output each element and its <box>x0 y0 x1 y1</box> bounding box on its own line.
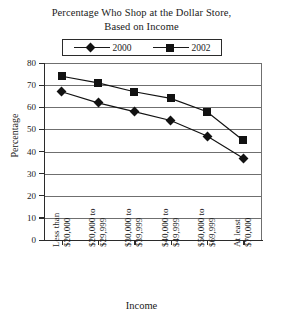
x-tick-label-1: $20,000 to$29,999 <box>87 173 108 247</box>
y-tick-label: 60 <box>27 102 36 112</box>
x-tick-label-line: Less than <box>51 173 62 247</box>
y-tick-50: 50 <box>0 124 44 134</box>
chart-legend: 2000 2002 <box>62 39 222 56</box>
y-axis: 80706050403020100 <box>0 0 44 320</box>
gridline-20 <box>45 196 261 197</box>
y-tick-80: 80 <box>0 58 44 68</box>
data-point-2002-0 <box>58 72 66 80</box>
legend-sample-2000 <box>74 42 110 54</box>
diamond-marker-icon <box>85 42 95 52</box>
data-point-2002-1 <box>94 79 102 87</box>
y-tick-label: 50 <box>27 124 36 134</box>
y-tick-70: 70 <box>0 80 44 90</box>
x-tick-label-line: $49,999 <box>170 173 181 247</box>
y-tick-10: 10 <box>0 213 44 223</box>
y-tick-label: 0 <box>32 235 37 245</box>
x-tick-label-4: $50,000 to$69,999 <box>196 173 217 247</box>
legend-entry-2000: 2000 <box>74 40 132 55</box>
y-tick-30: 30 <box>0 169 44 179</box>
gridline-50 <box>45 129 261 130</box>
x-tick-label-line: $20,000 <box>61 173 72 247</box>
y-tick-label: 40 <box>27 147 36 157</box>
x-tick-label-line: $30,000 to <box>123 173 134 247</box>
x-tick-label-line: At least <box>232 173 243 247</box>
x-tick-label-line: $40,000 to <box>160 173 171 247</box>
x-tick-label-line: $50,000 to <box>196 173 207 247</box>
gridline-60 <box>45 107 261 108</box>
y-axis-title: Percentage <box>9 91 20 181</box>
x-tick-label-2: $30,000 to$39,999 <box>123 173 144 247</box>
data-point-2002-5 <box>239 136 247 144</box>
gridline-80 <box>45 63 261 64</box>
y-tick-label: 10 <box>27 213 36 223</box>
x-tick-label-0: Less than$20,000 <box>51 173 72 247</box>
y-tick-label: 20 <box>27 191 36 201</box>
x-tick-label-5: At least$70,000 <box>232 173 253 247</box>
plot-area <box>44 63 262 240</box>
data-point-2002-3 <box>167 94 175 102</box>
y-tick-60: 60 <box>0 102 44 112</box>
legend-label-2002: 2002 <box>192 43 211 53</box>
gridline-40 <box>45 152 261 153</box>
y-tick-label: 80 <box>27 58 36 68</box>
gridline-70 <box>45 85 261 86</box>
legend-sample-2002 <box>153 42 189 54</box>
x-tick-label-3: $40,000 to$49,999 <box>160 173 181 247</box>
y-tick-20: 20 <box>0 191 44 201</box>
y-tick-label: 70 <box>27 80 36 90</box>
square-marker-icon <box>166 44 174 52</box>
data-point-2002-4 <box>203 108 211 116</box>
y-tick-40: 40 <box>0 147 44 157</box>
gridline-30 <box>45 174 261 175</box>
x-axis-title: Income <box>0 300 283 311</box>
x-tick-label-line: $39,999 <box>134 173 145 247</box>
x-tick-label-line: $29,999 <box>98 173 109 247</box>
x-tick-label-line: $69,999 <box>207 173 218 247</box>
data-point-2002-2 <box>130 88 138 96</box>
y-tick-0: 0 <box>0 235 44 245</box>
x-tick-label-line: $70,000 <box>243 173 254 247</box>
y-tick-label: 30 <box>27 169 36 179</box>
line-chart-figure: Percentage Who Shop at the Dollar Store,… <box>0 0 283 320</box>
x-axis-line <box>44 240 263 241</box>
gridline-10 <box>45 218 261 219</box>
x-tick-label-line: $20,000 to <box>87 173 98 247</box>
legend-entry-2002: 2002 <box>153 40 211 55</box>
legend-label-2000: 2000 <box>113 43 132 53</box>
